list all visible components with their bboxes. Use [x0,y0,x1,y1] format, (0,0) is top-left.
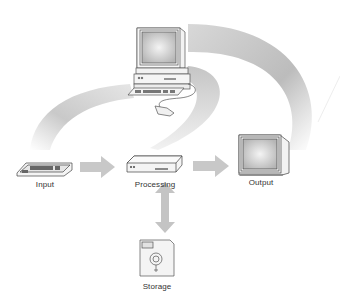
storage-label: Storage [132,282,182,291]
output-label: Output [236,178,286,187]
io-diagram: Input Processing Output Storage [0,0,340,305]
system-unit-icon [127,156,182,172]
input-label: Input [20,180,70,189]
floppy-disk-icon [140,240,174,276]
arrow-processing-to-output [193,155,229,177]
desktop-computer-icon [128,28,195,116]
swoosh-input [30,84,134,150]
arrow-processing-storage [155,182,175,233]
monitor-icon [239,135,289,175]
processing-label: Processing [125,180,185,189]
keyboard-icon [17,163,72,176]
arrow-input-to-processing [80,156,115,178]
